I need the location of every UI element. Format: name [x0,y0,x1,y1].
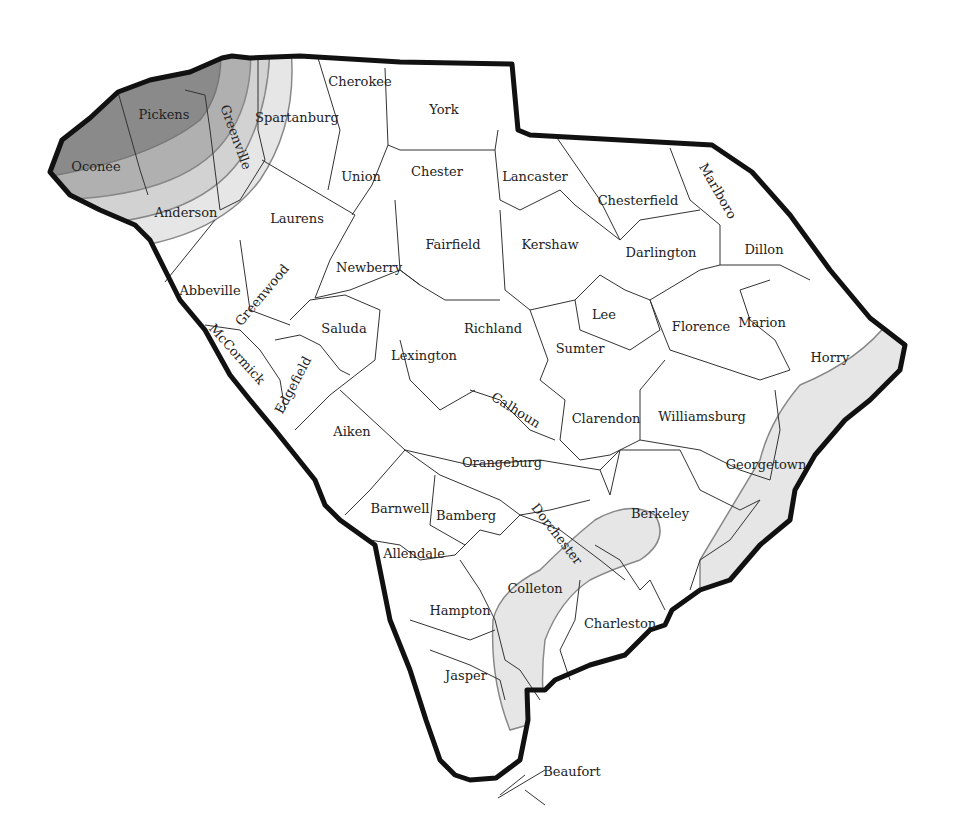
sc-county-map [0,0,960,833]
county-label-oconee: Oconee [71,159,121,174]
county-label-clarendon: Clarendon [572,411,641,426]
county-label-allendale: Allendale [383,546,445,561]
county-label-dillon: Dillon [744,242,783,257]
county-label-spartanburg: Spartanburg [255,110,339,125]
map-container: PickensOconeeGreenvilleSpartanburgCherok… [0,0,960,833]
county-label-barnwell: Barnwell [370,501,429,516]
county-label-fairfield: Fairfield [425,237,480,252]
county-label-jasper: Jasper [445,668,487,683]
county-label-cherokee: Cherokee [328,74,391,89]
county-label-williamsburg: Williamsburg [658,409,746,424]
county-label-marion: Marion [738,315,786,330]
county-label-beaufort: Beaufort [543,764,600,779]
county-label-aiken: Aiken [333,424,371,439]
county-label-chesterfield: Chesterfield [598,193,679,208]
county-label-lexington: Lexington [391,348,457,363]
county-label-kershaw: Kershaw [521,237,578,252]
county-label-georgetown: Georgetown [726,457,807,472]
county-label-york: York [429,102,458,117]
county-label-bamberg: Bamberg [436,508,496,523]
county-label-hampton: Hampton [429,603,490,618]
county-label-florence: Florence [672,319,730,334]
county-label-sumter: Sumter [556,341,605,356]
county-label-union: Union [341,169,381,184]
county-label-orangeburg: Orangeburg [462,455,542,470]
county-label-anderson: Anderson [155,205,218,220]
county-label-colleton: Colleton [507,581,562,596]
county-label-laurens: Laurens [270,211,324,226]
county-label-richland: Richland [464,321,522,336]
county-label-charleston: Charleston [584,616,656,631]
county-label-darlington: Darlington [626,245,697,260]
county-label-newberry: Newberry [336,260,402,275]
county-label-saluda: Saluda [321,321,366,336]
county-label-lee: Lee [592,307,616,322]
county-label-pickens: Pickens [139,107,190,122]
county-label-abbeville: Abbeville [179,283,240,298]
county-label-lancaster: Lancaster [502,169,568,184]
county-label-berkeley: Berkeley [631,506,689,521]
county-label-chester: Chester [411,164,463,179]
county-label-horry: Horry [811,350,850,365]
